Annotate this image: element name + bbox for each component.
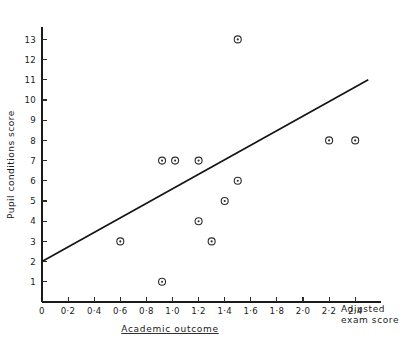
y-tick-label: 7 xyxy=(30,156,36,166)
x-tick-label: 0·6 xyxy=(113,306,128,316)
x-tick-label: 1·2 xyxy=(191,306,206,316)
y-tick-label: 12 xyxy=(24,55,36,65)
scatter-plot-figure: 1234567891011121300·20·40·60·81·01·21·41… xyxy=(0,0,409,344)
y-tick-label: 8 xyxy=(30,136,36,146)
x-tick-label: 2·0 xyxy=(296,306,311,316)
y-axis-title: Pupil conditions score xyxy=(6,110,16,219)
data-point-center-dot xyxy=(174,160,176,162)
x-axis-title: Academic outcome xyxy=(121,324,219,334)
y-tick-label: 13 xyxy=(24,35,36,45)
y-tick-label: 4 xyxy=(30,216,36,226)
data-point-center-dot xyxy=(161,160,163,162)
data-point-center-dot xyxy=(237,38,239,40)
x-tick-label: 0·2 xyxy=(61,306,76,316)
x-tick-label: 0 xyxy=(39,306,45,316)
regression-line xyxy=(42,80,368,262)
x-tick-label: 1·6 xyxy=(244,306,259,316)
data-point-center-dot xyxy=(354,139,356,141)
x-tick-label: 1·4 xyxy=(217,306,232,316)
y-tick-label: 11 xyxy=(24,75,36,85)
data-point-center-dot xyxy=(328,139,330,141)
data-point-center-dot xyxy=(237,180,239,182)
data-point-center-dot xyxy=(119,240,121,242)
x-axis-secondary-label-line1: Adjusted xyxy=(341,304,385,314)
y-tick-label: 5 xyxy=(30,196,36,206)
x-tick-label: 0·8 xyxy=(139,306,154,316)
x-tick-label: 1·8 xyxy=(270,306,285,316)
y-tick-label: 1 xyxy=(30,277,36,287)
x-tick-label: 1·0 xyxy=(165,306,180,316)
y-tick-label: 2 xyxy=(30,257,36,267)
data-point-center-dot xyxy=(161,281,163,283)
y-tick-label: 10 xyxy=(24,95,36,105)
data-point-center-dot xyxy=(224,200,226,202)
y-tick-label: 3 xyxy=(30,237,36,247)
x-tick-label: 0·4 xyxy=(87,306,102,316)
plot-canvas: 1234567891011121300·20·40·60·81·01·21·41… xyxy=(0,0,409,344)
data-point-center-dot xyxy=(211,240,213,242)
y-tick-label: 6 xyxy=(30,176,36,186)
data-point-center-dot xyxy=(198,220,200,222)
y-tick-label: 9 xyxy=(30,115,36,125)
x-tick-label: 2·2 xyxy=(322,306,337,316)
data-point-center-dot xyxy=(198,160,200,162)
x-axis-secondary-label-line2: exam score xyxy=(341,315,399,325)
